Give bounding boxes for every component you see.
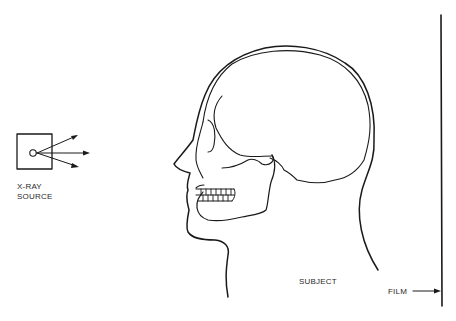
skull-face-line [196,122,203,178]
subject-label: SUBJECT [299,277,337,286]
film-label: FILM [388,287,407,296]
teeth [196,189,235,201]
source-point-icon [30,150,36,156]
emission-arrows-icon [37,135,90,168]
film: FILM [388,15,442,306]
subject-head [174,46,378,297]
maxilla-line [196,185,204,188]
head-outline [174,46,378,297]
temporal-line [214,96,272,157]
xray-diagram: X-RAY SOURCE SUBJECT FILM [0,0,456,321]
zygomatic-arch [222,155,273,168]
source-box [17,134,52,169]
source-label-line1: X-RAY [17,182,42,191]
skull-vault [203,51,370,183]
film-line [441,15,442,306]
xray-source: X-RAY SOURCE [17,134,90,201]
eye-orbit [208,120,215,152]
source-label-line2: SOURCE [17,192,52,201]
